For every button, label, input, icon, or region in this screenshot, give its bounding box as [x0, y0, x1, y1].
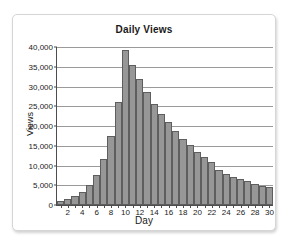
bar[interactable]: [201, 157, 208, 205]
bar[interactable]: [244, 181, 251, 205]
chart-card: Daily Views Views Day 40,00035,00030,000…: [12, 14, 276, 231]
bar[interactable]: [251, 184, 258, 205]
x-axis-line: [56, 205, 273, 206]
bar[interactable]: [266, 187, 273, 205]
y-tick-label: 25,000: [29, 102, 53, 111]
bar[interactable]: [71, 196, 78, 205]
bar-slot: [230, 47, 237, 205]
bar[interactable]: [151, 104, 158, 206]
plot-area: 40,00035,00030,00025,00020,00015,00010,0…: [57, 47, 273, 205]
bar-slot: [93, 47, 100, 205]
bar[interactable]: [57, 201, 64, 205]
bar-slot: [57, 47, 64, 205]
y-tick-label: 40,000: [29, 43, 53, 52]
bar-slot: [151, 47, 158, 205]
bar-slot: [172, 47, 179, 205]
y-tick-label: 10,000: [29, 161, 53, 170]
chart-title: Daily Views: [13, 24, 275, 35]
bar-slot: [71, 47, 78, 205]
bar-slot: [244, 47, 251, 205]
bar-slot: [251, 47, 258, 205]
bar-slot: [158, 47, 165, 205]
bar[interactable]: [129, 65, 136, 205]
bar-slot: [194, 47, 201, 205]
bar-series: [57, 47, 273, 205]
bar[interactable]: [215, 170, 222, 205]
bar-slot: [165, 47, 172, 205]
bar[interactable]: [100, 159, 107, 205]
bar[interactable]: [93, 175, 100, 205]
bar-slot: [100, 47, 107, 205]
bar-slot: [179, 47, 186, 205]
bar-slot: [237, 47, 244, 205]
bar[interactable]: [143, 92, 150, 205]
bar-slot: [86, 47, 93, 205]
bar-slot: [79, 47, 86, 205]
y-tick-label: 15,000: [29, 141, 53, 150]
bar[interactable]: [86, 185, 93, 205]
bar[interactable]: [187, 145, 194, 205]
bar[interactable]: [165, 122, 172, 205]
bar[interactable]: [122, 50, 129, 205]
bar[interactable]: [136, 79, 143, 205]
bar-slot: [201, 47, 208, 205]
bar[interactable]: [208, 162, 215, 205]
bar-slot: [129, 47, 136, 205]
bar-slot: [122, 47, 129, 205]
bar[interactable]: [223, 174, 230, 205]
bar[interactable]: [230, 177, 237, 205]
bar[interactable]: [107, 136, 114, 205]
bar[interactable]: [179, 139, 186, 205]
bar-slot: [187, 47, 194, 205]
bar-slot: [215, 47, 222, 205]
bar[interactable]: [194, 152, 201, 205]
bar-slot: [208, 47, 215, 205]
bar[interactable]: [259, 186, 266, 205]
y-tick-label: 30,000: [29, 82, 53, 91]
bar[interactable]: [237, 179, 244, 205]
bar-slot: [136, 47, 143, 205]
bar-slot: [143, 47, 150, 205]
bar[interactable]: [172, 131, 179, 205]
bar[interactable]: [64, 199, 71, 205]
x-axis-title: Day: [13, 215, 275, 226]
y-tick-label: 0: [49, 201, 53, 210]
bar-slot: [107, 47, 114, 205]
bar-slot: [259, 47, 266, 205]
bar-slot: [266, 47, 273, 205]
bar[interactable]: [79, 192, 86, 205]
bar[interactable]: [158, 114, 165, 205]
bar-slot: [64, 47, 71, 205]
y-tick-label: 35,000: [29, 62, 53, 71]
bar-slot: [115, 47, 122, 205]
bar-slot: [223, 47, 230, 205]
y-tick-label: 20,000: [29, 122, 53, 131]
bar[interactable]: [115, 102, 122, 205]
y-tick-label: 5,000: [33, 181, 53, 190]
